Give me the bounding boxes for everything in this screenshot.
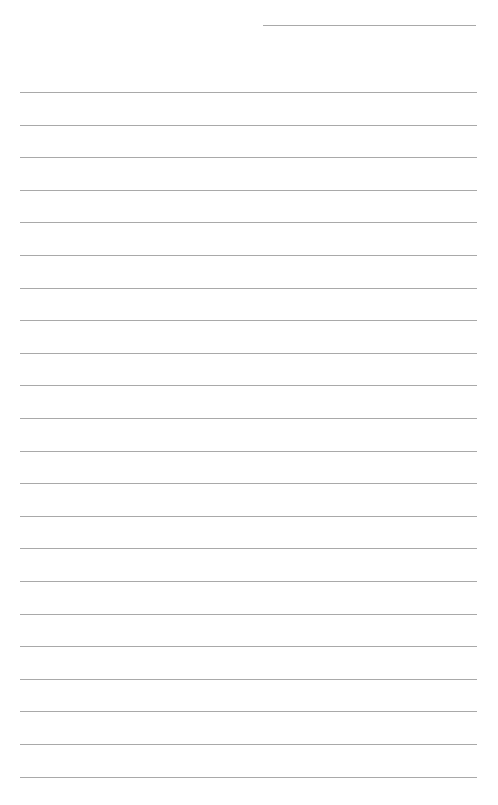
ruled-line [20,744,477,745]
ruled-line [20,451,477,452]
ruled-line [20,679,477,680]
lined-paper-page [0,0,498,805]
ruled-line [20,418,477,419]
ruled-line [20,125,477,126]
header-rule-line [263,25,476,26]
ruled-line [20,157,477,158]
ruled-line [20,516,477,517]
ruled-line [20,581,477,582]
ruled-line [20,548,477,549]
ruled-line [20,255,477,256]
ruled-line [20,385,477,386]
ruled-line [20,222,477,223]
ruled-line [20,353,477,354]
ruled-line [20,320,477,321]
ruled-line [20,92,477,93]
ruled-line [20,614,477,615]
ruled-line [20,711,477,712]
ruled-line [20,190,477,191]
ruled-line [20,483,477,484]
ruled-line [20,777,477,778]
ruled-line [20,288,477,289]
ruled-line [20,646,477,647]
